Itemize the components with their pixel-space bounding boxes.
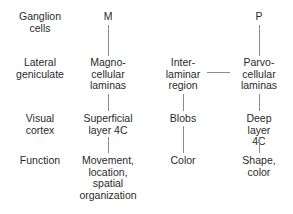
m-cortex-node: Superficial layer 4C: [83, 113, 132, 136]
row-label-ganglion-cells: Ganglion cells: [19, 11, 61, 34]
interlaminar-connector-cortex-function: [183, 126, 184, 153]
p-connector-cortex-function: [259, 137, 260, 153]
m-function-node: Movement, location, spatial organization: [79, 155, 136, 201]
interlaminar-connector-lgn-cortex: [183, 94, 184, 111]
p-function-node: Shape, color: [242, 155, 275, 178]
interlaminar-parvo-connector: [207, 72, 230, 73]
m-lgn-node: Magno- cellular laminas: [90, 57, 126, 92]
interlaminar-cortex-node: Blobs: [170, 113, 196, 125]
p-lgn-node: Parvo- cellular laminas: [241, 57, 277, 92]
row-label-lateral-geniculate: Lateral geniculate: [16, 57, 64, 80]
m-connector-ganglion-lgn: [108, 25, 109, 56]
interlaminar-lgn-node: Inter- laminar region: [166, 57, 200, 92]
p-connector-lgn-cortex: [259, 94, 260, 111]
m-connector-cortex-function: [108, 137, 109, 153]
row-label-visual-cortex: Visual cortex: [26, 113, 55, 136]
m-ganglion-node: M: [104, 11, 113, 23]
m-connector-lgn-cortex: [108, 94, 109, 111]
p-connector-ganglion-lgn: [259, 25, 260, 56]
row-label-function: Function: [20, 155, 60, 167]
interlaminar-function-node: Color: [170, 155, 195, 167]
p-ganglion-node: P: [255, 11, 262, 23]
